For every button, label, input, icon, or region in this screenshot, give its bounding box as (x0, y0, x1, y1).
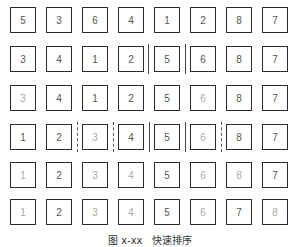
array-cell: 7 (262, 124, 288, 150)
array-cell: 3 (82, 124, 108, 150)
partition-divider-solid (148, 44, 149, 74)
sort-step-row-pass-3: 1 2 3 4 5 6 8 7 (0, 124, 300, 150)
sort-step-row-initial: 5 3 6 4 1 2 8 7 (0, 7, 300, 33)
array-cell: 6 (190, 124, 216, 150)
array-cell: 8 (226, 7, 252, 33)
partition-divider-dashed (77, 122, 78, 152)
array-cell: 7 (262, 85, 288, 111)
array-cell: 1 (10, 199, 36, 225)
pivot-cell: 5 (154, 46, 180, 72)
array-cell: 3 (10, 46, 36, 72)
array-cell: 3 (10, 85, 36, 111)
array-cell: 2 (46, 199, 72, 225)
array-cell: 4 (118, 199, 144, 225)
array-cell: 7 (262, 46, 288, 72)
partition-divider-solid (149, 122, 150, 152)
array-cell: 7 (262, 7, 288, 33)
array-cell: 7 (226, 199, 252, 225)
array-cell: 8 (226, 162, 252, 188)
array-cell: 6 (190, 162, 216, 188)
sort-step-row-pass-4: 1 2 3 4 5 6 8 7 (0, 162, 300, 188)
array-cell: 6 (82, 7, 108, 33)
array-cell: 6 (190, 199, 216, 225)
array-cell: 5 (154, 85, 180, 111)
array-cell: 8 (226, 124, 252, 150)
array-cell: 1 (10, 124, 36, 150)
sort-step-row-sorted: 1 2 3 4 5 6 7 8 (0, 199, 300, 225)
array-cell: 1 (82, 46, 108, 72)
partition-divider-dashed (113, 122, 114, 152)
sort-step-row-pass-1: 3 4 1 2 5 6 8 7 (0, 46, 300, 72)
array-cell: 6 (190, 85, 216, 111)
array-cell: 2 (118, 85, 144, 111)
array-cell: 4 (46, 85, 72, 111)
sort-step-row-pass-2: 3 4 1 2 5 6 8 7 (0, 85, 300, 111)
figure-caption: 图 x-xx 快速排序 (0, 232, 300, 247)
array-cell: 1 (154, 7, 180, 33)
array-cell: 4 (118, 124, 144, 150)
partition-divider-solid (185, 44, 186, 74)
array-cell: 5 (10, 7, 36, 33)
array-cell: 3 (82, 162, 108, 188)
array-cell: 2 (118, 46, 144, 72)
array-cell: 4 (118, 7, 144, 33)
partition-divider-solid (185, 122, 186, 152)
array-cell: 4 (118, 162, 144, 188)
pivot-cell: 5 (154, 124, 180, 150)
array-cell: 8 (262, 199, 288, 225)
array-cell: 1 (82, 85, 108, 111)
array-cell: 3 (46, 7, 72, 33)
array-cell: 5 (154, 162, 180, 188)
array-cell: 6 (190, 46, 216, 72)
array-cell: 5 (154, 199, 180, 225)
array-cell: 7 (262, 162, 288, 188)
array-cell: 2 (46, 162, 72, 188)
array-cell: 1 (10, 162, 36, 188)
array-cell: 3 (82, 199, 108, 225)
array-cell: 2 (46, 124, 72, 150)
array-cell: 8 (226, 46, 252, 72)
array-cell: 4 (46, 46, 72, 72)
array-cell: 2 (190, 7, 216, 33)
array-cell: 8 (226, 85, 252, 111)
partition-divider-dashed (221, 122, 222, 152)
